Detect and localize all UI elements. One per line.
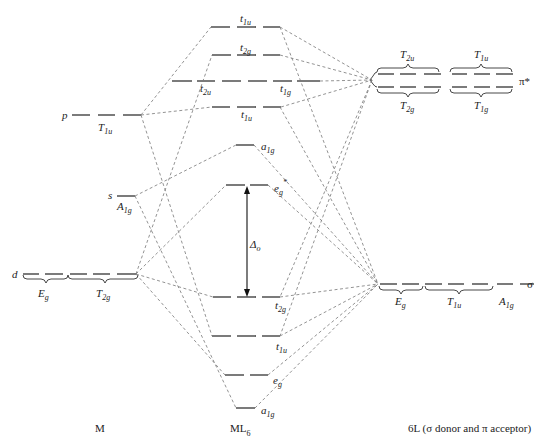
column-title-complex: ML6 xyxy=(230,422,251,438)
label-T2g-lig: T2g xyxy=(400,99,414,114)
label-A1g-metal: A1g xyxy=(116,200,132,215)
label-A1g-lig: A1g xyxy=(498,295,514,310)
label-t1u-top: t1u xyxy=(240,12,251,27)
label-T1u-metal: T1u xyxy=(98,121,112,136)
label-eg-bond: eg xyxy=(273,374,282,389)
label-T1u-lig-upper: T1u xyxy=(474,48,488,63)
label-eg-star: eg* xyxy=(274,178,287,197)
correlation-lines xyxy=(135,27,378,408)
eg-brace xyxy=(23,275,68,283)
label-t1u-pi: t1u xyxy=(241,108,252,123)
label-T1g-lig: T1g xyxy=(474,99,488,114)
label-a1g-bond: a1g xyxy=(261,404,275,419)
label-t1g: t1g xyxy=(280,82,291,97)
label-s: s xyxy=(108,189,112,201)
label-pi-star: π* xyxy=(519,75,530,87)
label-t2g-top: t2g xyxy=(240,41,251,56)
label-d: d xyxy=(12,268,18,280)
label-T2u-lig: T2u xyxy=(400,48,414,63)
label-t1u-bond: t1u xyxy=(276,340,287,355)
label-delta-o: Δo xyxy=(249,238,260,253)
label-T1u-lig-sigma: T1u xyxy=(447,295,461,310)
label-a1g-star: a1g xyxy=(261,140,275,155)
label-Eg-metal: Eg xyxy=(37,287,49,302)
label-t2u: t2u xyxy=(200,82,211,97)
label-sigma: σ xyxy=(527,278,533,290)
t2g-brace xyxy=(68,275,138,283)
label-t2g-pi: t2g xyxy=(275,299,286,314)
label-p: p xyxy=(61,109,68,121)
column-title-metal: M xyxy=(95,422,105,434)
column-title-ligands: 6L (σ donor and π acceptor) xyxy=(408,422,532,435)
label-Eg-lig: Eg xyxy=(394,295,406,310)
mo-diagram: p T1u s A1g d Eg T2g t1u t2g t2u t1g t1u… xyxy=(0,0,537,446)
label-T2g-metal: T2g xyxy=(96,287,110,302)
